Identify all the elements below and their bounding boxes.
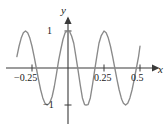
y-tick-label-1: 1 — [47, 26, 52, 36]
x-axis-label: x — [158, 64, 163, 75]
x-tick-label-0.5: 0.5 — [131, 73, 144, 83]
y-axis-arrowhead — [64, 17, 71, 25]
x-tick-label-0.25: 0.25 — [94, 73, 112, 83]
function-plot-figure: y x −0.25 0.25 0.5 1 −1 — [0, 0, 165, 124]
y-axis-label: y — [61, 5, 66, 16]
x-tick-label--0.25: −0.25 — [14, 73, 37, 83]
plot-canvas — [0, 0, 165, 124]
y-tick-label--1: −1 — [43, 100, 54, 110]
